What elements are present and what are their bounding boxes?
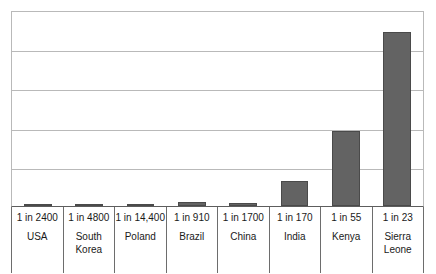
category-label-cell: 1 in 23Sierra Leone xyxy=(372,207,425,273)
rate-label: 1 in 14,400 xyxy=(116,211,166,224)
category-label-cell: 1 in 1700China xyxy=(217,207,269,273)
category-label-cell: 1 in 4800South Korea xyxy=(63,207,115,273)
bars-layer xyxy=(12,12,423,206)
bar[interactable] xyxy=(127,204,155,206)
category-label-cell: 1 in 14,400Poland xyxy=(114,207,166,273)
country-label: Kenya xyxy=(332,230,360,243)
bar-chart: 1 in 2400USA1 in 4800South Korea1 in 14,… xyxy=(0,0,436,274)
bar[interactable] xyxy=(24,204,52,206)
bar[interactable] xyxy=(229,203,257,206)
bar-slot xyxy=(166,12,217,206)
bar[interactable] xyxy=(75,204,103,206)
bar-slot xyxy=(269,12,320,206)
country-label: Sierra Leone xyxy=(384,230,412,256)
bar[interactable] xyxy=(332,131,360,206)
rate-label: 1 in 2400 xyxy=(17,211,58,224)
rate-label: 1 in 1700 xyxy=(223,211,264,224)
country-label: USA xyxy=(27,230,48,243)
bar[interactable] xyxy=(281,181,309,206)
rate-label: 1 in 55 xyxy=(331,211,361,224)
bar[interactable] xyxy=(383,32,411,206)
category-label-cell: 1 in 2400USA xyxy=(11,207,63,273)
bar-slot xyxy=(320,12,371,206)
bar-slot xyxy=(372,12,423,206)
country-label: India xyxy=(284,230,306,243)
category-label-cell: 1 in 170India xyxy=(269,207,321,273)
country-label: China xyxy=(230,230,256,243)
bar-slot xyxy=(63,12,114,206)
category-label-table: 1 in 2400USA1 in 4800South Korea1 in 14,… xyxy=(11,207,424,273)
category-label-cell: 1 in 55Kenya xyxy=(320,207,372,273)
rate-label: 1 in 910 xyxy=(174,211,210,224)
rate-label: 1 in 23 xyxy=(383,211,413,224)
rate-label: 1 in 4800 xyxy=(68,211,109,224)
category-label-cell: 1 in 910Brazil xyxy=(166,207,218,273)
country-label: South Korea xyxy=(75,230,102,256)
rate-label: 1 in 170 xyxy=(277,211,313,224)
country-label: Brazil xyxy=(179,230,204,243)
bar-slot xyxy=(115,12,166,206)
plot-area xyxy=(11,11,424,207)
bar-slot xyxy=(218,12,269,206)
bar[interactable] xyxy=(178,202,206,206)
bar-slot xyxy=(12,12,63,206)
country-label: Poland xyxy=(125,230,156,243)
